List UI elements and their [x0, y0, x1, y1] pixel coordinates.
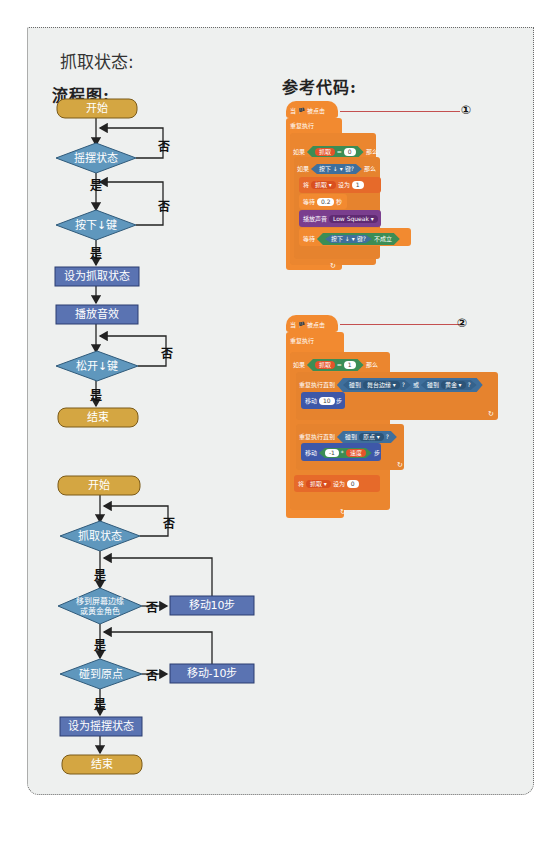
- key-pressed-sensor: 按下 ↓ ▾ 键?: [311, 164, 362, 174]
- if-label: 如果: [293, 148, 305, 155]
- marker-line-1: [340, 111, 460, 112]
- not-operator: 按下 ↓ ▾ 键? 不成立: [317, 233, 400, 245]
- sound-dropdown[interactable]: Low Squeak ▾: [329, 215, 378, 223]
- loop-arrow-icon: ↻: [330, 262, 336, 270]
- loop-arrow-icon-4: ↻: [340, 508, 346, 516]
- var-grab: 抓取: [315, 148, 335, 156]
- set-value[interactable]: 1: [352, 181, 364, 189]
- value-0: 0: [344, 148, 356, 156]
- if-label-2: 如果: [297, 165, 309, 172]
- loop-arrow-icon-3: ↻: [397, 461, 403, 469]
- marker-2: ②: [457, 316, 467, 330]
- var-dropdown[interactable]: 抓取 ▾: [311, 181, 336, 189]
- loop-arrow-icon-2: ↻: [488, 410, 494, 418]
- equals-operator-2: 抓取 = 1: [307, 359, 364, 371]
- key-dropdown[interactable]: ↓ ▾: [333, 165, 343, 172]
- marker-line-2: [340, 324, 460, 325]
- forever-label-2: 重复执行: [290, 338, 314, 344]
- then-label: 那么: [366, 148, 378, 155]
- wait-value[interactable]: 0.2: [317, 198, 335, 206]
- hat-label-1: 当 🏴 被点击: [290, 108, 325, 114]
- or-operator: 碰到 舞台边缘 ▾ ? 或 碰到 黄金 ▾ ?: [337, 378, 483, 392]
- forever-label-1: 重复执行: [290, 123, 314, 129]
- marker-1: ①: [461, 103, 471, 117]
- hat-label-2: 当 🏴 被点击: [290, 322, 325, 328]
